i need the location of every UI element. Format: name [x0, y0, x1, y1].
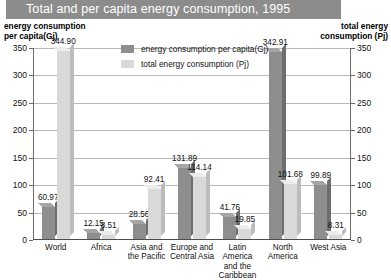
category-label-line: Europe and	[169, 243, 214, 252]
bar[interactable]	[148, 189, 161, 240]
bar-value-label: 92.41	[139, 175, 170, 184]
title-banner: Total and per capita energy consumption,…	[6, 0, 341, 19]
bar-front-face	[57, 51, 70, 240]
y-axis-left-tick-label: 300	[13, 70, 27, 80]
axis-tick	[351, 75, 355, 76]
axis-tick	[351, 185, 355, 186]
x-axis-category-label: NorthAmerica	[260, 243, 305, 262]
bar-side-face	[161, 181, 165, 236]
bar-group: 12.158.51	[87, 48, 115, 240]
x-axis-category-label: Asia andthe Pacific	[124, 243, 169, 262]
axis-tick	[351, 48, 355, 49]
bar-value-label: 131.89	[169, 154, 200, 163]
bar-side-face	[206, 169, 210, 236]
bar-front-face	[133, 224, 146, 240]
bar-group: 99.898.31	[314, 48, 342, 240]
category-label-line: the Pacific	[124, 252, 169, 261]
y-axis-right-tick-label: 0	[357, 235, 362, 245]
bar[interactable]	[42, 207, 55, 240]
x-axis-category-label: Latin Americaand theCaribbean	[215, 243, 260, 280]
bar[interactable]	[284, 184, 297, 240]
category-label-line: America	[260, 252, 305, 261]
plot-area: 050100150200250300350 050100150200250300…	[33, 48, 351, 240]
chart-title: Total and per capita energy consumption,…	[26, 2, 290, 16]
bar-group: 41.7619.85	[223, 48, 251, 240]
axis-tick	[351, 130, 355, 131]
y-axis-right-tick-label: 300	[357, 70, 371, 80]
x-axis-baseline	[33, 239, 351, 240]
y-axis-left-tick-label: 150	[13, 153, 27, 163]
category-label-line: Africa	[78, 243, 123, 252]
bar-group: 131.89114.14	[178, 48, 206, 240]
right-axis-caption-line2: consumption (Pj)	[320, 32, 388, 42]
x-axis-category-label: Europe andCentral Asia	[169, 243, 214, 262]
bar-value-label: 101.68	[275, 170, 306, 179]
legend: energy consumption per capita(Gj) total …	[121, 44, 268, 74]
bar[interactable]	[178, 168, 191, 240]
y-axis-right-tick-label: 350	[357, 43, 371, 53]
bar-group: 28.5692.41	[133, 48, 161, 240]
y-axis-right-tick-label: 200	[357, 125, 371, 135]
legend-label-total: total energy consumption (Pj)	[141, 59, 249, 69]
y-axis-left-tick-label: 0	[22, 235, 27, 245]
bar-front-face	[269, 52, 282, 240]
x-axis-category-label: West Asia	[306, 243, 351, 252]
bar-front-face	[178, 168, 191, 240]
bar-value-label: 344.90	[48, 37, 79, 46]
bar[interactable]	[193, 177, 206, 240]
bar[interactable]	[57, 51, 70, 240]
y-axis-left-tick-label: 50	[18, 208, 27, 218]
legend-label-per-capita: energy consumption per capita(Gj)	[141, 44, 268, 54]
bar-front-face	[284, 184, 297, 240]
legend-swatch-icon-total	[121, 60, 134, 68]
category-label-line: Central Asia	[169, 252, 214, 261]
axis-tick	[351, 158, 355, 159]
y-axis-left-tick-label: 100	[13, 180, 27, 190]
bar-value-label: 99.89	[305, 171, 336, 180]
category-label-line: and the	[215, 262, 260, 271]
bar-front-face	[148, 189, 161, 240]
bar-side-face	[70, 43, 74, 236]
category-label-line: World	[33, 243, 78, 252]
y-axis-right-tick-label: 50	[357, 208, 366, 218]
category-label-line: Asia and	[124, 243, 169, 252]
legend-item-per-capita: energy consumption per capita(Gj)	[121, 44, 268, 54]
y-axis-left-tick-label: 200	[13, 125, 27, 135]
y-axis-left-tick-label: 350	[13, 43, 27, 53]
bar-value-label: 114.14	[184, 163, 215, 172]
bar-value-label: 8.51	[93, 221, 124, 230]
bar-value-label: 19.85	[229, 215, 260, 224]
x-axis-category-label: Africa	[78, 243, 123, 252]
bar-side-face	[297, 176, 301, 236]
bar-front-face	[193, 177, 206, 240]
bar-front-face	[42, 207, 55, 240]
bar-value-label: 41.76	[214, 203, 245, 212]
bar-group: 342.91101.68	[269, 48, 297, 240]
y-axis-left-tick-label: 250	[13, 98, 27, 108]
y-axis-right-tick-label: 250	[357, 98, 371, 108]
legend-swatch-icon-per-capita	[121, 45, 134, 53]
bar-value-label: 8.31	[320, 221, 351, 230]
y-axis-right-tick-label: 100	[357, 180, 371, 190]
bar-groups: 60.97344.9012.158.5128.5692.41131.89114.…	[33, 48, 351, 240]
axis-tick	[351, 213, 355, 214]
bar-group: 60.97344.90	[42, 48, 70, 240]
x-axis-category-labels: WorldAfricaAsia andthe PacificEurope and…	[33, 243, 351, 273]
category-label-line: Caribbean	[215, 271, 260, 280]
y-axis-right-tick-label: 150	[357, 153, 371, 163]
x-axis-category-label: World	[33, 243, 78, 252]
category-label-line: West Asia	[306, 243, 351, 252]
axis-tick	[351, 240, 355, 241]
legend-item-total: total energy consumption (Pj)	[121, 59, 268, 69]
category-label-line: Latin America	[215, 243, 260, 262]
category-label-line: North	[260, 243, 305, 252]
axis-tick	[29, 240, 33, 241]
bar[interactable]	[133, 224, 146, 240]
bar[interactable]	[269, 52, 282, 240]
right-axis-caption: total energy consumption (Pj)	[320, 22, 388, 41]
axis-tick	[351, 103, 355, 104]
